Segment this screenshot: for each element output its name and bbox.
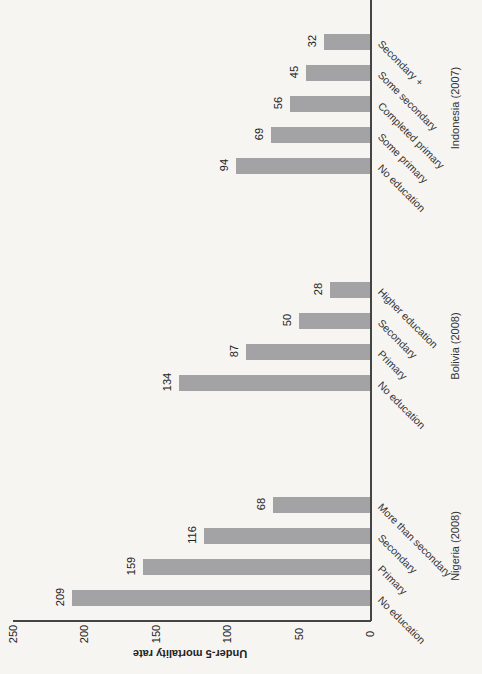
bar-value-label: 32 (306, 31, 318, 51)
bar-value-label: 159 (125, 556, 137, 576)
bar (324, 34, 370, 50)
bar-value-label: 50 (281, 310, 293, 330)
bar (236, 158, 370, 174)
bar-value-label: 116 (186, 525, 198, 545)
category-label: No education (376, 594, 428, 646)
chart-figure: 050100150200250 Under-5 mortality rate 3… (0, 0, 482, 674)
group-label: Indonesia (2007) (449, 58, 461, 158)
bar (246, 344, 370, 360)
tick-label: 250 (7, 622, 19, 646)
group-label: Nigeria (2008) (449, 496, 461, 596)
bar-value-label: 69 (253, 124, 265, 144)
bar (271, 127, 370, 143)
bar (290, 96, 370, 112)
bar-value-label: 94 (218, 155, 230, 175)
bar-value-label: 45 (288, 62, 300, 82)
tick-label: 200 (78, 622, 90, 646)
value-axis (13, 620, 371, 622)
bar (179, 375, 370, 391)
category-label: No education (376, 379, 428, 431)
bar (306, 65, 370, 81)
tick-label: 0 (364, 622, 376, 646)
bar-value-label: 209 (54, 587, 66, 607)
bar (273, 497, 370, 513)
bar (204, 528, 370, 544)
bar-value-label: 56 (272, 93, 284, 113)
baseline-axis (370, 0, 372, 621)
bar-value-label: 87 (228, 341, 240, 361)
bar (299, 313, 370, 329)
bar (330, 282, 370, 298)
bar (72, 590, 370, 606)
tick-label: 150 (150, 622, 162, 646)
group-label: Bolivia (2008) (449, 296, 461, 396)
value-axis-label: Under-5 mortality rate (110, 648, 270, 660)
bar-value-label: 68 (255, 494, 267, 514)
bar-value-label: 134 (161, 372, 173, 392)
tick-label: 100 (221, 622, 233, 646)
bar-value-label: 28 (312, 279, 324, 299)
bar (143, 559, 370, 575)
tick-label: 50 (293, 622, 305, 646)
